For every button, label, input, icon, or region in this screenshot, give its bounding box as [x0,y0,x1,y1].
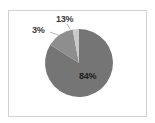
leader-line-13-percent [67,24,70,29]
leader-line-3-percent [50,32,61,36]
pie-plot-area [0,0,155,123]
pie-label-3-percent: 3% [32,25,45,35]
pie-slices [45,29,113,97]
pie-chart-figure: 13% 3% 84% [0,0,155,123]
pie-label-84-percent: 84% [79,71,96,81]
pie-label-13-percent: 13% [56,14,73,24]
